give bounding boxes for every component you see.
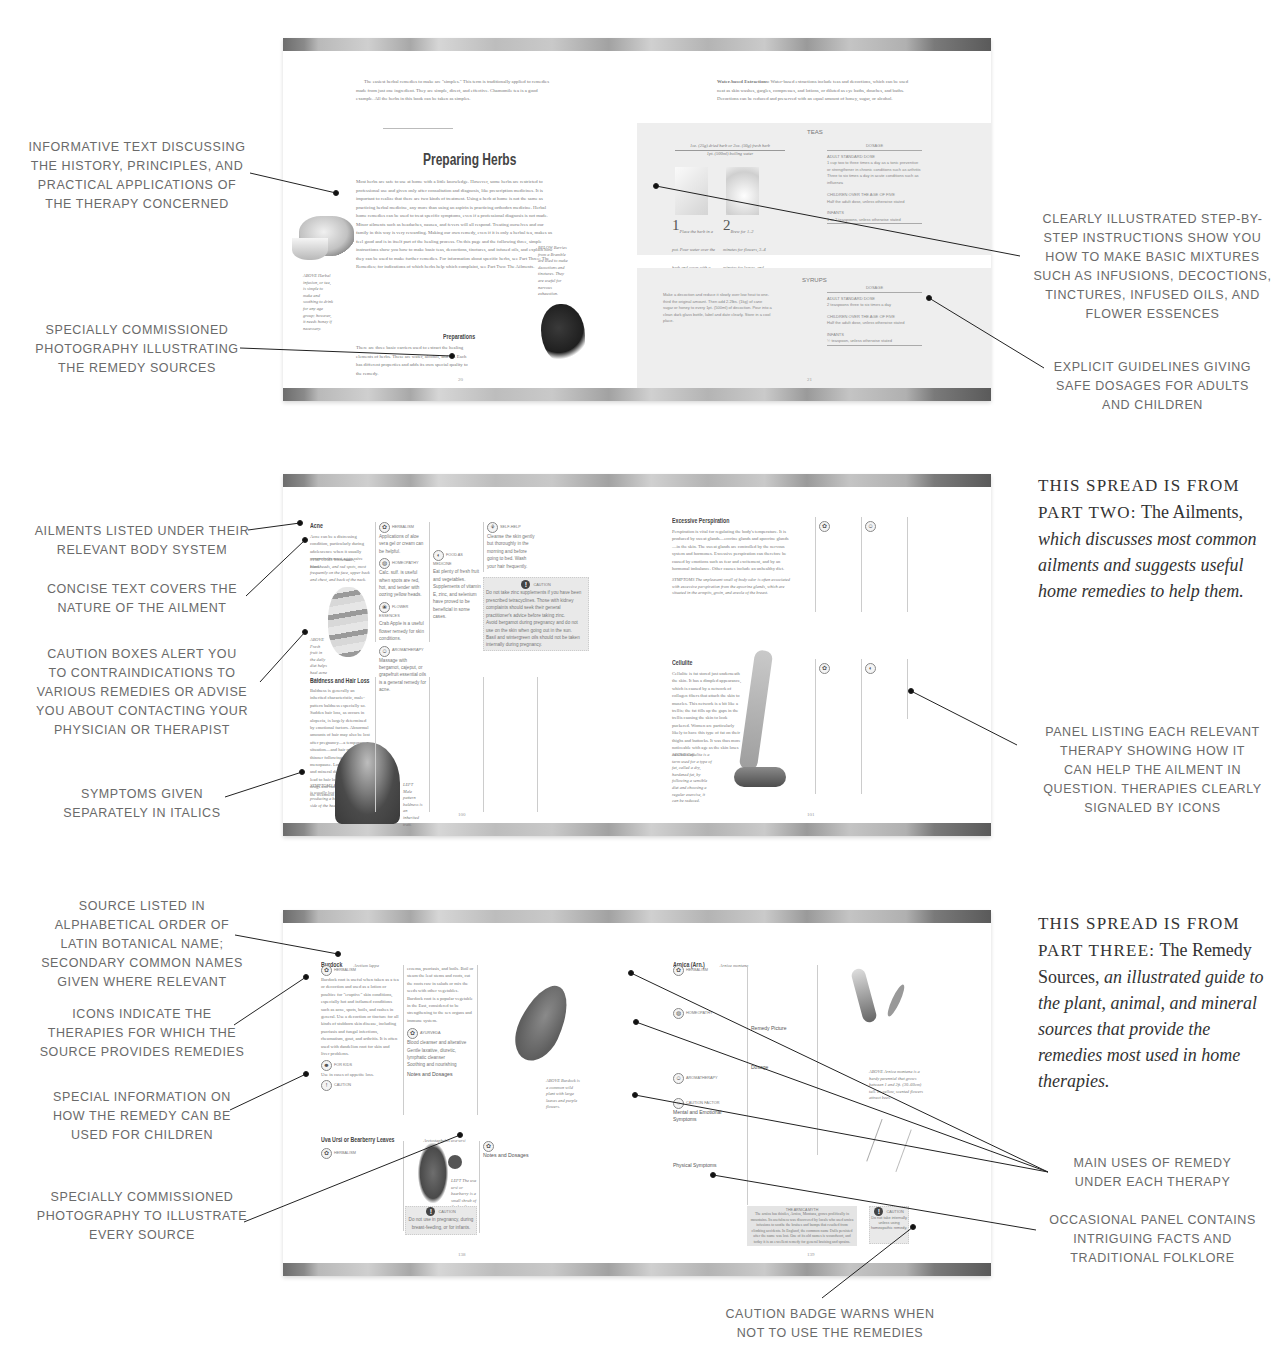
herbalism-icon: ✿ xyxy=(379,522,390,533)
syrups-dosage: DOSAGE ADULT STANDARD DOSE 2 teaspoons t… xyxy=(827,285,922,346)
herbalism-icon: ✿ xyxy=(819,663,830,674)
therapy-column xyxy=(907,517,911,612)
therapy-column xyxy=(537,677,541,812)
caution-factor-icon: ◌ xyxy=(673,1098,684,1109)
therapy-food: ◐FOOD AS MEDICINEEat plenty of fresh fru… xyxy=(433,550,481,620)
burdock-leaf-photo xyxy=(506,978,578,1068)
syrups-panel: SYRUPS Make a decoction and reduce it sl… xyxy=(637,268,991,388)
teas-title: TEAS xyxy=(807,129,823,135)
therapy-column xyxy=(429,677,433,812)
teacup-photo xyxy=(292,238,328,260)
page-21: Water-based Extractions: Water-based ext… xyxy=(637,51,991,388)
preparations-text: There are three basic carriers used to e… xyxy=(356,344,471,378)
page-20: The easiest herbal remedies to make are … xyxy=(283,51,637,388)
callout-dosages: EXPLICIT GUIDELINES GIVINGSAFE DOSAGES F… xyxy=(1030,358,1275,415)
spread-bottom-bar xyxy=(283,823,991,836)
intro-part-two: THIS SPREAD IS FROM PART TWO: The Ailmen… xyxy=(1038,472,1278,604)
page-number: 139 xyxy=(807,1252,815,1257)
therapy-column: ✿ xyxy=(815,517,830,612)
berries-caption: BELOW Berries from a Bramble are used to… xyxy=(538,245,568,298)
preparations-subheading: Preparations xyxy=(443,333,475,340)
homeopathy-icon: ◍ xyxy=(673,1008,684,1019)
source-title: Uva Ursi or Bearberry Leaves xyxy=(321,1136,395,1143)
callout-photography: SPECIALLY COMMISSIONEDPHOTOGRAPHY ILLUST… xyxy=(22,321,252,378)
section-title: Preparing Herbs xyxy=(423,151,516,169)
page-100: Acne Acne can be a distressing condition… xyxy=(283,487,637,823)
step2-photo xyxy=(726,167,759,215)
children-item: Half the adult dose, unless otherwise st… xyxy=(827,320,922,327)
callout-body-system: AILMENTS LISTED UNDER THEIRRELEVANT BODY… xyxy=(22,522,262,560)
caution-badge: ! CAUTION Do not take internally unless … xyxy=(869,1206,909,1244)
arnica-homeopathy: ◍HOMEOPATHY xyxy=(673,1008,741,1019)
ailment-title-cellulite: Cellulite xyxy=(672,659,692,666)
ailment-title-perspiration: Excessive Perspiration xyxy=(672,517,729,524)
caution-icon: ! xyxy=(321,1080,332,1091)
uva-ursi-caution: ! CAUTION Do not use in pregnancy, durin… xyxy=(405,1206,477,1235)
page-number: 100 xyxy=(458,812,466,817)
callout-step-by-step: CLEARLY ILLUSTRATED STEP-BY-STEP INSTRUC… xyxy=(1025,210,1280,324)
arnica-root-photo xyxy=(866,1119,911,1172)
therapy-column xyxy=(483,677,487,812)
children-icon: ☻ xyxy=(321,1060,332,1071)
spread-remedy-sources: Burdock Arctium lappa ✿HERBALISM Burdock… xyxy=(283,910,991,1276)
herbalism-icon: ✿ xyxy=(819,521,830,532)
callout-informative-text: INFORMATIVE TEXT DISCUSSINGTHE HISTORY, … xyxy=(22,138,252,214)
therapy-column xyxy=(907,659,911,719)
page-101: Excessive Perspiration Perspiration is v… xyxy=(637,487,991,823)
ayurveda-icon: ✿ xyxy=(483,1141,494,1152)
body-text: Most herbs are safe to use at home with … xyxy=(356,178,556,272)
callout-photography-source: SPECIALLY COMMISSIONEDPHOTOGRAPHY TO ILL… xyxy=(22,1188,262,1245)
teas-dosage: DOSAGE ADULT STANDARD DOSE 1 cup two to … xyxy=(827,143,922,224)
children-item: Half the adult dose, unless otherwise st… xyxy=(827,199,922,206)
arnica-caption: ABOVE Arnica montana is a hardy perennia… xyxy=(869,1069,924,1102)
food-as-medicine-icon: ◐ xyxy=(433,550,444,561)
food-as-medicine-icon: ◐ xyxy=(865,663,876,674)
apple-photo xyxy=(328,587,368,657)
cellulite-caption: ABOVE Cellulite is a term used for a typ… xyxy=(672,752,712,805)
burdock-children: ☻FOR KIDS Use in cases of appetite loss. xyxy=(321,1060,399,1078)
flower-essences-icon: ❀ xyxy=(379,602,390,613)
arnica-aromatherapy: ☺AROMATHERAPY xyxy=(673,1073,741,1084)
ailment-symptoms-acne: SYMPTOMS Whiteheads, blackheads, and red… xyxy=(310,557,370,583)
page-138: Burdock Arctium lappa ✿HERBALISM Burdock… xyxy=(283,923,637,1263)
intro-paragraph: The easiest herbal remedies to make are … xyxy=(356,78,556,104)
water-extractions-label: Water-based Extractions: xyxy=(717,79,769,84)
page-number: 138 xyxy=(458,1252,466,1257)
therapy-column: ✿HERBALISMApplications of aloe vera gel … xyxy=(375,522,427,642)
bearberry-photo xyxy=(418,1143,448,1203)
herbalism-icon: ✿ xyxy=(321,1148,332,1159)
ailment-title-acne: Acne xyxy=(310,522,323,529)
therapy-aromatherapy: ☺AROMATHERAPYMassage with bergamot, caje… xyxy=(379,646,427,694)
callout-children: SPECIAL INFORMATION ONHOW THE REMEDY CAN… xyxy=(22,1088,262,1145)
ailment-body-perspiration: Perspiration is vital for regulating the… xyxy=(672,528,792,572)
teas-recipe-line2: 1pt. (500ml) boiling water xyxy=(675,151,785,158)
self-help-icon: ⚘ xyxy=(487,522,498,533)
caution-icon: ! xyxy=(426,1207,435,1216)
adult-item: 1 cup two to three times a day as a toni… xyxy=(827,160,922,173)
caution-icon: ! xyxy=(874,1207,883,1216)
step2-number: 2 xyxy=(723,219,731,232)
adult-item: 2 teaspoons three to six times a day xyxy=(827,302,922,309)
ailment-body-cellulite: Cellulite is fat stored just underneath … xyxy=(672,670,742,759)
uva-ursi-herbalism: ✿HERBALISM xyxy=(321,1148,399,1159)
spread-ailments: Acne Acne can be a distressing condition… xyxy=(283,474,991,836)
arnica-col3 xyxy=(817,965,821,1155)
burdock-caption: ABOVE Burdock is a common wild plant wit… xyxy=(546,1078,580,1111)
callout-symptoms: SYMPTOMS GIVENSEPARATELY IN ITALICS xyxy=(22,785,262,823)
callout-concise-text: CONCISE TEXT COVERS THENATURE OF THE AIL… xyxy=(22,580,262,618)
burdock-col3 xyxy=(477,965,481,1115)
page-number: 21 xyxy=(807,377,812,382)
spread-bottom-bar xyxy=(283,1263,991,1276)
homeopathy-icon: ◍ xyxy=(379,558,390,569)
arnica-caution-factor: ◌CAUTION FACTOR Mental and Emotional Sym… xyxy=(673,1098,741,1169)
teas-panel: TEAS 1oz. (25g) dried herb or 2oz. (50g)… xyxy=(637,123,991,255)
infants-item: ½ teaspoon, unless otherwise stated xyxy=(827,338,922,346)
caution-box: ! CAUTION Do not take zinc supplements i… xyxy=(483,577,589,651)
aromatherapy-icon: ☺ xyxy=(673,1073,684,1084)
page-number: 101 xyxy=(807,812,815,817)
infants-item: 1 or 2 teaspoons, unless otherwise state… xyxy=(827,217,922,225)
folklore-panel: THE ARNICA MYTH The arnica has thistles,… xyxy=(747,1206,857,1246)
step1-number: 1 xyxy=(672,219,680,232)
callout-main-uses: MAIN USES OF REMEDYUNDER EACH THERAPY xyxy=(1030,1154,1275,1192)
therapy-column: ☺ xyxy=(861,517,876,612)
